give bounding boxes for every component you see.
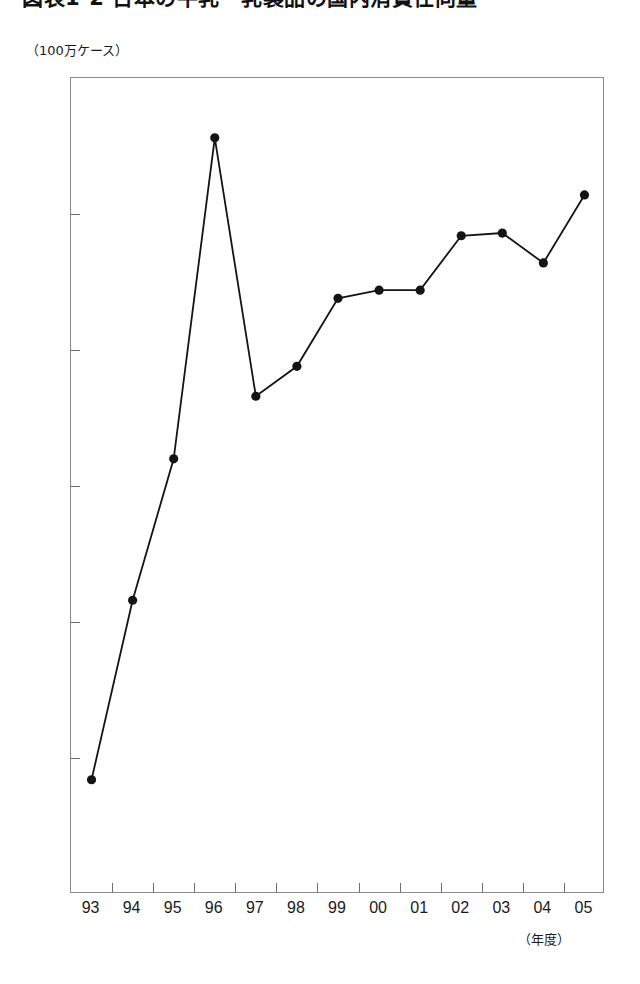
data-point-marker [374,286,383,295]
data-point-marker [539,258,548,267]
series-markers [87,133,589,784]
x-axis-tick [400,883,401,892]
x-axis-tick [441,883,442,892]
x-axis-label: 97 [233,900,277,916]
data-point-marker [87,775,96,784]
x-axis-label: 98 [274,900,318,916]
data-point-marker [210,133,219,142]
x-axis-tick [317,883,318,892]
x-axis-label: 93 [69,900,113,916]
x-axis-tick [523,883,524,892]
data-point-marker [128,596,137,605]
y-axis-tick [71,486,80,487]
x-axis-label: 94 [110,900,154,916]
page-title-text: 図表1-2 日本の牛乳・乳製品の国内消費仕向量 [22,0,478,11]
x-axis-tick [153,883,154,892]
y-axis-tick [71,622,80,623]
data-point-marker [580,190,589,199]
data-point-marker [251,392,260,401]
x-axis-label: 96 [192,900,236,916]
x-axis-label: 00 [356,900,400,916]
x-axis-tick [112,883,113,892]
data-point-marker [333,294,342,303]
x-axis-tick [482,883,483,892]
x-axis-label: 05 [561,900,605,916]
data-point-marker [416,286,425,295]
x-axis-tick [235,883,236,892]
y-axis-tick [71,758,80,759]
x-axis-tick [276,883,277,892]
x-axis-label: 99 [315,900,359,916]
data-point-marker [169,454,178,463]
data-point-marker [292,362,301,371]
y-axis-unit-label: （100万ケース） [26,40,128,59]
chart-plot-area [70,77,604,893]
x-axis-label: 02 [438,900,482,916]
x-axis-tick [194,883,195,892]
y-axis-tick [71,350,80,351]
x-axis-tick [564,883,565,892]
y-axis-tick [71,214,80,215]
x-axis-label: 04 [520,900,564,916]
data-point-marker [457,231,466,240]
x-axis-label: 01 [397,900,441,916]
x-axis-label: 03 [479,900,523,916]
page-title: 図表1-2 日本の牛乳・乳製品の国内消費仕向量 [0,0,640,18]
x-axis-tick [359,883,360,892]
line-series [71,78,605,894]
series-polyline [92,138,585,780]
data-point-marker [498,228,507,237]
x-axis-label: 95 [151,900,195,916]
x-axis-caption: （年度） [518,929,570,948]
